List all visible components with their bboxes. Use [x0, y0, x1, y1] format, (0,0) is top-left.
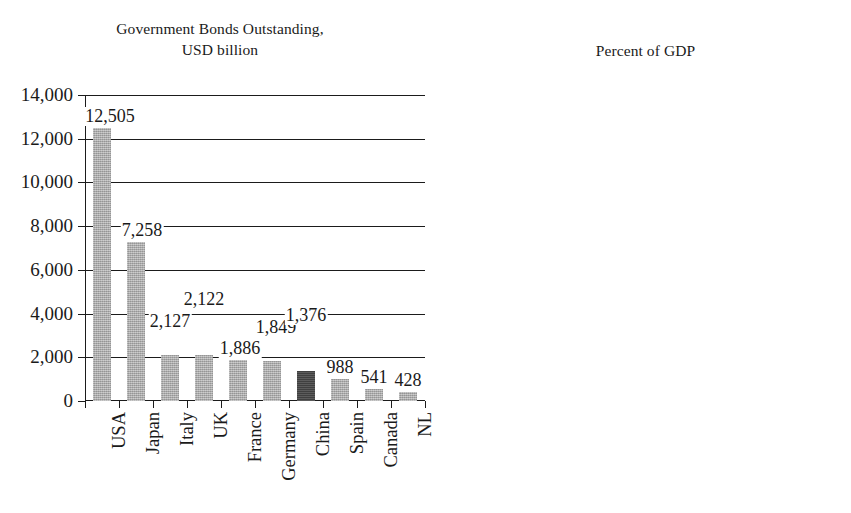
bar-canada — [365, 389, 383, 401]
x-axis-tick — [221, 401, 222, 408]
x-axis-tick — [323, 401, 324, 408]
y-axis-tick — [78, 182, 86, 183]
x-axis-label-italy: Italy — [177, 412, 198, 446]
chart-title-percent-of-gdp: Percent of GDP — [440, 40, 851, 61]
y-axis-label: 6,000 — [30, 258, 73, 280]
y-axis-label: 0 — [64, 390, 74, 412]
y-axis-label: 2,000 — [30, 346, 73, 368]
y-axis-tick — [78, 139, 86, 140]
y-axis-tick — [78, 270, 86, 271]
x-axis-tick — [85, 401, 86, 408]
bar-value-label: 12,505 — [84, 107, 136, 126]
x-axis-tick — [255, 401, 256, 408]
x-axis-tick — [391, 401, 392, 408]
y-axis-label: 8,000 — [30, 215, 73, 237]
y-axis-label: 12,000 — [21, 127, 73, 149]
x-axis-label-uk: UK — [211, 412, 232, 439]
y-axis-tick — [78, 314, 86, 315]
x-axis-label-france: France — [245, 412, 266, 462]
bar-france — [229, 360, 247, 401]
y-axis-tick — [78, 357, 86, 358]
bar-uk — [195, 355, 213, 401]
x-axis-tick — [289, 401, 290, 408]
x-axis-label-usa: USA — [109, 412, 130, 449]
gridline — [85, 139, 425, 140]
x-axis-label-nl: NL — [415, 412, 436, 437]
x-axis-tick — [425, 401, 426, 408]
chart-title-bonds-outstanding: Government Bonds Outstanding, USD billio… — [0, 18, 440, 60]
x-axis-tick — [187, 401, 188, 408]
x-axis-tick — [119, 401, 120, 408]
y-axis-tick — [78, 226, 86, 227]
bar-japan — [127, 242, 145, 401]
bar-value-label: 541 — [360, 368, 389, 387]
gridline — [85, 95, 425, 96]
bar-usa — [93, 128, 111, 401]
x-axis-label-japan: Japan — [143, 412, 164, 454]
y-axis-label: 4,000 — [30, 302, 73, 324]
bar-value-label: 428 — [394, 371, 423, 390]
x-axis-label-canada: Canada — [381, 412, 402, 467]
bar-value-label: 988 — [326, 358, 355, 377]
bar-value-label: 2,127 — [149, 312, 192, 331]
plot-area-bonds-outstanding: 14,00012,00010,0008,0006,0004,0002,00001… — [85, 95, 425, 401]
y-axis-label: 10,000 — [21, 171, 73, 193]
bar-value-label: 1,886 — [219, 339, 262, 358]
chart-panel-percent-of-gdp: Percent of GDP 160140120100806040200152J… — [440, 0, 851, 513]
y-axis-label: 14,000 — [21, 84, 73, 106]
bar-germany — [263, 361, 281, 401]
chart-page: Government Bonds Outstanding, USD billio… — [0, 0, 851, 513]
bar-value-label: 2,122 — [183, 290, 226, 309]
x-axis-label-china: China — [313, 412, 334, 456]
x-axis-tick — [357, 401, 358, 408]
x-axis-tick — [153, 401, 154, 408]
bar-italy — [161, 355, 179, 401]
bar-value-label: 1,376 — [285, 306, 328, 325]
gridline — [85, 182, 425, 183]
bar-nl — [399, 392, 417, 401]
chart-panel-bonds-outstanding: Government Bonds Outstanding, USD billio… — [0, 0, 440, 513]
bar-value-label: 7,258 — [121, 221, 164, 240]
y-axis-tick — [78, 95, 86, 96]
bar-spain — [331, 379, 349, 401]
y-axis-line — [85, 95, 86, 401]
bar-china — [297, 371, 315, 401]
x-axis-label-germany: Germany — [279, 412, 300, 481]
x-axis-label-spain: Spain — [347, 412, 368, 454]
